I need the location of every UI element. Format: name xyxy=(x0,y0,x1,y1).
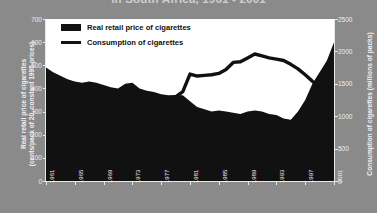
legend-item-price: Real retail price of cigarettes xyxy=(61,23,191,32)
bottom-axis-tick-mark xyxy=(305,182,306,185)
bottom-axis-tick-label: 1969 xyxy=(107,170,113,183)
bottom-axis-tick-mark xyxy=(219,182,220,185)
chart-legend: Real retail price of cigarettes Consumpt… xyxy=(61,23,191,47)
left-axis-tick-mark xyxy=(43,88,46,89)
left-axis-tick-mark xyxy=(43,135,46,136)
right-axis-tick-mark xyxy=(335,116,338,117)
left-axis-tick-label: 700 xyxy=(20,16,42,23)
bottom-axis-tick-mark xyxy=(75,182,76,185)
right-axis-spine xyxy=(334,19,335,182)
bottom-axis-tick-mark xyxy=(46,182,47,185)
bottom-axis-tick-label: 1981 xyxy=(193,170,199,183)
chart-title: in South Africa, 1961 - 2001 xyxy=(0,0,377,6)
bottom-axis-tick-label: 1961 xyxy=(49,170,55,183)
bottom-axis-tick-mark xyxy=(132,182,133,185)
bottom-axis-tick-mark xyxy=(161,182,162,185)
bottom-axis-tick-mark xyxy=(276,182,277,185)
left-axis-title-line2: (cents/pack of 20, constant 1995 prices) xyxy=(28,24,36,184)
bottom-axis-tick-label: 1985 xyxy=(222,170,228,183)
area-swatch-icon xyxy=(61,24,81,31)
left-axis-tick-mark xyxy=(43,42,46,43)
chart-figure: in South Africa, 1961 - 2001 01002003004… xyxy=(0,0,377,213)
right-axis-tick-mark xyxy=(335,149,338,150)
left-axis-tick-mark xyxy=(43,65,46,66)
bottom-axis-tick-mark xyxy=(104,182,105,185)
right-axis-tick-mark xyxy=(335,84,338,85)
bottom-axis-tick-label: 1977 xyxy=(164,170,170,183)
left-axis-tick-mark xyxy=(43,19,46,20)
bottom-axis-tick-label: 1997 xyxy=(308,170,314,183)
left-axis-tick-mark xyxy=(43,158,46,159)
left-axis-title: Real retail price of cigarettes (cents/p… xyxy=(20,24,36,184)
bottom-axis-tick-mark xyxy=(248,182,249,185)
bottom-axis-tick-label: 1993 xyxy=(279,170,285,183)
legend-label-price: Real retail price of cigarettes xyxy=(87,23,191,32)
line-swatch-icon xyxy=(61,41,81,44)
bottom-axis-tick-label: 1965 xyxy=(78,170,84,183)
bottom-axis-tick-mark xyxy=(334,182,335,185)
right-axis-tick-label: 2500 xyxy=(338,16,377,23)
right-axis-tick-mark xyxy=(335,51,338,52)
legend-label-consumption: Consumption of cigarettes xyxy=(87,38,183,47)
bottom-axis-tick-label: 2001 xyxy=(337,170,343,183)
left-axis-tick-mark xyxy=(43,112,46,113)
bottom-axis-tick-mark xyxy=(190,182,191,185)
legend-item-consumption: Consumption of cigarettes xyxy=(61,38,191,47)
right-axis-tick-mark xyxy=(335,19,338,20)
bottom-axis-tick-label: 1989 xyxy=(251,170,257,183)
bottom-axis-tick-label: 1973 xyxy=(135,170,141,183)
right-axis-title: Consumption of cigarettes (millions of p… xyxy=(366,24,374,184)
left-axis-title-line1: Real retail price of cigarettes xyxy=(20,24,28,184)
